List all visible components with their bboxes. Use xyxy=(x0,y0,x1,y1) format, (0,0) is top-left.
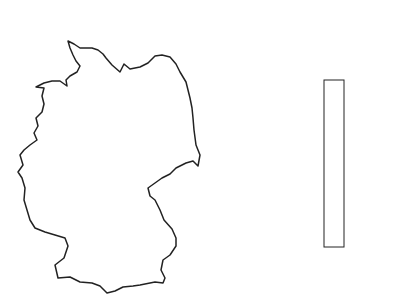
germany-outline xyxy=(18,41,200,293)
germany-map xyxy=(0,0,396,301)
